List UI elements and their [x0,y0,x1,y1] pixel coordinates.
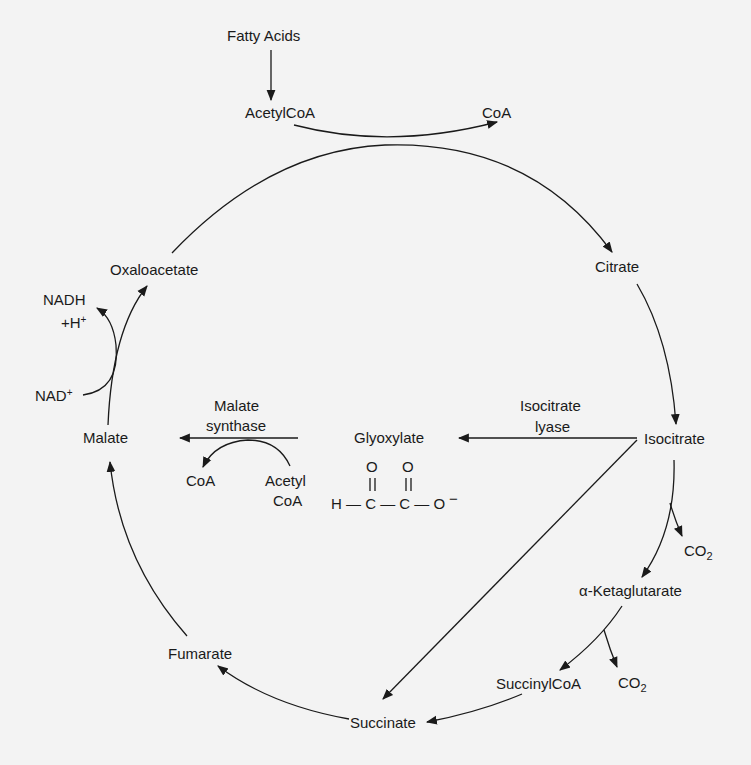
fumarate-node: Fumarate [168,645,232,662]
svg-text:Malate: Malate [214,397,259,414]
co2-node-1: CO2 [684,542,713,562]
svg-text:Succinate: Succinate [350,714,416,731]
malate-synthase-enzyme: Malate synthase [206,397,266,434]
svg-text:Isocitrate: Isocitrate [644,430,705,447]
svg-text:Isocitrate: Isocitrate [520,397,581,414]
svg-text:lyase: lyase [535,418,570,435]
svg-text:CO2: CO2 [684,542,713,562]
svg-text:Acetyl: Acetyl [265,472,306,489]
svg-text:α-Ketaglutarate: α-Ketaglutarate [579,582,682,599]
coa-top-node: CoA [482,104,511,121]
arrow-isocitrate-co2-release [670,503,682,536]
svg-text:−: − [449,490,458,507]
svg-text:AcetylCoA: AcetylCoA [245,104,315,121]
fatty-acids-node: Fatty Acids [227,27,300,44]
oxaloacetate-node: Oxaloacetate [110,261,198,278]
arrow-isocitrate-to-succinate [383,440,637,699]
arrow-acetylcoa-to-coa-malate-synthase [203,440,290,467]
svg-text:NAD+: NAD+ [35,387,73,404]
isocitrate-lyase-enzyme: Isocitrate lyase [520,397,581,435]
arrow-alpha-ketaglutarate-co2-release [604,630,617,667]
alpha-ketaglutarate-node: α-Ketaglutarate [579,582,682,599]
svg-text:Malate: Malate [83,429,128,446]
succinate-node: Succinate [350,714,416,731]
co2-node-2: CO2 [618,674,647,694]
arrow-succinate-to-fumarate [218,666,349,719]
svg-text:synthase: synthase [206,417,266,434]
svg-text:H — C — C — O: H — C — C — O [331,495,445,512]
succinylcoa-node: SuccinylCoA [496,675,581,692]
svg-text:Citrate: Citrate [595,258,639,275]
svg-text:Fatty Acids: Fatty Acids [227,27,300,44]
arrow-citrate-to-isocitrate [637,284,676,424]
acetylcoa-node: AcetylCoA [245,104,315,121]
malate-synthase-acetylcoa-node: Acetyl CoA [265,472,306,509]
svg-text:CoA: CoA [273,492,302,509]
isocitrate-node: Isocitrate [644,430,705,447]
glyoxylate-node: Glyoxylate [354,429,424,446]
svg-text:CO2: CO2 [618,674,647,694]
arrow-fumarate-to-malate [110,462,187,636]
svg-text:CoA: CoA [482,104,511,121]
svg-text:Fumarate: Fumarate [168,645,232,662]
svg-text:Glyoxylate: Glyoxylate [354,429,424,446]
arrow-alpha-ketaglutarate-to-succinylcoa [560,606,622,670]
svg-text:O: O [366,458,378,475]
svg-text:SuccinylCoA: SuccinylCoA [496,675,581,692]
malate-node: Malate [83,429,128,446]
arrow-malate-to-oxaloacetate [108,286,147,425]
svg-text:NADH: NADH [43,291,86,308]
arrow-succinylcoa-to-succinate [427,694,522,722]
malate-synthase-coa-node: CoA [186,472,215,489]
arrow-isocitrate-to-alpha-ketaglutarate [642,460,674,577]
arrow-oxaloacetate-to-citrate [172,145,612,253]
nad-node: NAD+ [35,387,73,404]
arrow-acetylcoa-to-coa [294,122,497,137]
glyoxylate-cycle-diagram: Fatty Acids AcetylCoA CoA Citrate Isocit… [0,0,751,765]
svg-text:Oxaloacetate: Oxaloacetate [110,261,198,278]
svg-text:CoA: CoA [186,472,215,489]
glyoxylate-structure: O O H — C — C — O − [331,458,458,512]
svg-text:+H+: +H+ [61,314,87,331]
svg-text:O: O [402,458,414,475]
nadh-node: NADH +H+ [43,291,87,331]
citrate-node: Citrate [595,258,639,275]
